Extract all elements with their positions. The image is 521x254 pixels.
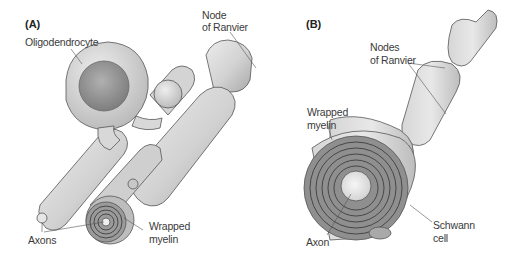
panel-b-cross-section [304, 136, 408, 240]
label-nodes-line1: Nodes [370, 41, 399, 53]
label-wrapped-myelin-b-line2: myelin [307, 119, 336, 131]
label-node-line2: of Ranvier [202, 21, 248, 33]
label-schwann-line1: Schwann [433, 219, 475, 231]
label-wrapped-myelin-b-line1: Wrapped [307, 106, 348, 118]
panel-b-label: (B) [306, 18, 321, 30]
label-axon: Axon [306, 236, 329, 248]
label-nodes-line2: of Ranvier [370, 54, 416, 66]
label-node-line1: Node [202, 9, 226, 21]
panel-a-illustration [37, 40, 252, 244]
label-schwann-line2: cell [433, 232, 448, 244]
label-oligodendrocyte: Oligodendrocyte [25, 36, 98, 48]
label-axons: Axons [28, 234, 56, 246]
label-wrapped-myelin-a-line1: Wrapped [149, 220, 190, 232]
label-wrapped-myelin-a-line2: myelin [149, 233, 178, 245]
panel-a-label: (A) [25, 18, 40, 30]
